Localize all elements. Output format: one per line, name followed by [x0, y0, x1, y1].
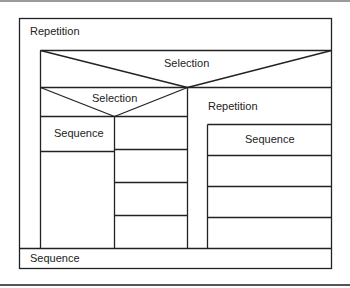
left-sequence-label: Sequence [54, 128, 104, 139]
top-selection-label: Selection [164, 58, 209, 69]
left-selection-label: Selection [92, 93, 137, 104]
top-selection-diag-right [188, 51, 332, 88]
bottom-sequence-label: Sequence [30, 253, 80, 264]
bottom-border-line [0, 284, 350, 286]
right-repetition-label: Repetition [208, 101, 258, 112]
structogram [0, 0, 350, 288]
right-sequence-label: Sequence [245, 134, 295, 145]
outer-repetition-label: Repetition [30, 26, 80, 37]
